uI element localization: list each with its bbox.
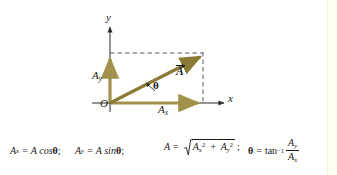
formula-magnitude: A = Ax2 + Ay2 ; — [164, 139, 240, 153]
radicand: Ax2 + Ay2 — [192, 139, 235, 153]
formula-ax-terminator: ; — [58, 145, 61, 156]
formula-ay: Ay = A sinθ; — [75, 145, 124, 156]
formula-magnitude-equals: = — [173, 141, 179, 152]
arctan-fraction: Ay Ax — [286, 137, 299, 164]
formula-ay-equals: = — [87, 145, 93, 156]
fraction-numerator-sub: y — [294, 142, 297, 149]
vector-ay-label-subscript: y — [99, 74, 102, 83]
radicand-term1-sup: 2 — [202, 141, 205, 148]
fraction-denominator-sub: x — [294, 156, 297, 163]
vector-ax-label: Ax — [158, 104, 168, 117]
fraction-denominator: Ax — [286, 150, 299, 164]
formula-angle: θ = tan−1 Ay Ax — [248, 137, 299, 164]
formula-angle-equals: = — [256, 145, 262, 156]
figure-page: y x O Ay Ax θ A Ax = A cosθ; Ay = A sinθ… — [0, 0, 337, 175]
formula-magnitude-lhs: A — [164, 141, 170, 152]
fraction-numerator: Ay — [286, 137, 299, 150]
theta-label: θ — [153, 80, 159, 91]
y-axis-label: y — [106, 12, 111, 23]
vector-a-label: A — [176, 63, 185, 78]
radicand-term2-sup: 2 — [230, 141, 233, 148]
radicand-plus: + — [210, 141, 217, 152]
formula-angle-fn: tan — [265, 145, 277, 156]
formula-row: Ax = A cosθ; Ay = A sinθ; A = Ax2 + A — [0, 126, 337, 175]
formula-magnitude-terminator: ; — [237, 141, 240, 153]
formula-angle-lhs: θ — [248, 145, 253, 156]
formula-ax-rhs: A cos — [31, 145, 53, 156]
vector-diagram: y x O Ay Ax θ A — [0, 0, 337, 128]
formula-ay-lhs-sub: y — [81, 147, 84, 154]
origin-label: O — [100, 98, 108, 109]
formula-ay-terminator: ; — [121, 145, 124, 156]
formula-ax-lhs-sub: x — [16, 147, 19, 154]
vector-ay-label-base: A — [92, 69, 99, 81]
formula-angle-fn-exponent: −1 — [277, 147, 284, 154]
vector-ax-label-subscript: x — [165, 108, 168, 117]
square-root-group: Ax2 + Ay2 — [184, 139, 235, 153]
vector-ax-label-base: A — [158, 103, 165, 115]
x-axis-label: x — [228, 93, 233, 104]
formula-ax-equals: = — [22, 145, 28, 156]
formula-ax: Ax = A cosθ; — [10, 145, 61, 156]
vector-arrow-overbar-icon — [176, 63, 185, 67]
vector-ay-label: Ay — [92, 70, 102, 83]
radical-sign-icon — [184, 139, 192, 153]
formula-ay-rhs: A sin — [96, 145, 116, 156]
